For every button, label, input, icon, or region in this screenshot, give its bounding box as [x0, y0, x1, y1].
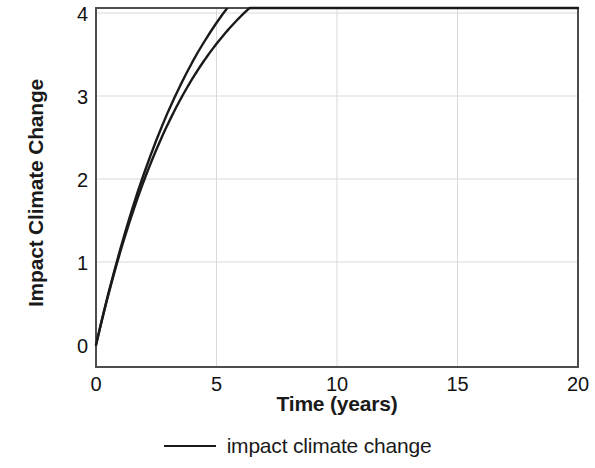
y-axis-title: Impact Climate Change — [24, 23, 48, 363]
vertical-gridlines — [217, 8, 458, 367]
x-axis-title: Time (years) — [96, 392, 578, 416]
chart-legend: impact climate change — [0, 434, 595, 458]
y-tick-label-0: 0 — [58, 335, 88, 358]
legend-line-swatch-icon — [164, 445, 216, 447]
chart-figure: Impact Climate Change 4 3 2 1 0 0 5 10 1… — [0, 0, 595, 468]
y-tick-label-4: 4 — [58, 3, 88, 26]
y-tick-label-2: 2 — [58, 169, 88, 192]
y-tick-label-3: 3 — [58, 86, 88, 109]
legend-entry-label: impact climate change — [227, 434, 432, 458]
y-tick-label-1: 1 — [58, 252, 88, 275]
